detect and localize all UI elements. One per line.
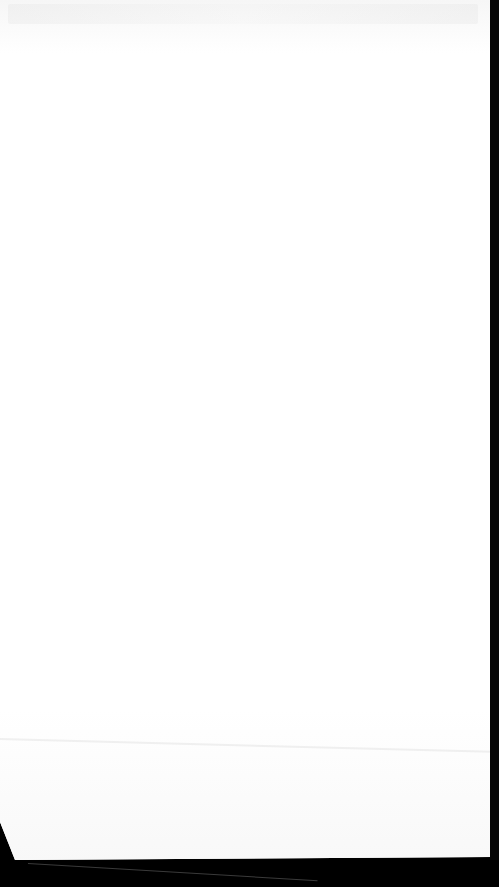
bezel-bottom bbox=[0, 860, 499, 887]
display-screen bbox=[0, 0, 499, 887]
bezel-right bbox=[490, 0, 499, 887]
washed-out-header-region bbox=[8, 4, 478, 24]
body-text bbox=[0, 738, 1, 739]
header-text bbox=[8, 4, 9, 5]
screen-glare bbox=[0, 0, 499, 887]
device-frame: Overexposed photo of a display screen; n… bbox=[0, 0, 499, 887]
